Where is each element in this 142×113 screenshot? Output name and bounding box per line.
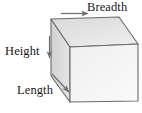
length-label: Length (17, 84, 53, 97)
breadth-label: Breadth (87, 1, 127, 14)
cuboid-front-face (70, 44, 138, 102)
height-label: Height (5, 45, 40, 58)
cuboid-diagram: Breadth Height Length (0, 0, 142, 113)
